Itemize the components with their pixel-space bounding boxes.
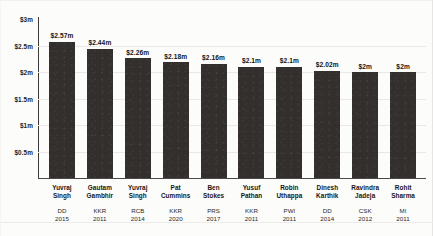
x-axis-label-column: RavindraJadejaCSK2012 [346,180,384,223]
player-name-line2: Sharma [384,192,422,200]
player-name-label: GautamGambhir [81,184,119,201]
x-axis-label-column: RohitSharmaMI2011 [384,180,422,223]
team-abbr: MI [384,207,422,215]
bar-wrapper: $2.16m [195,64,233,178]
bar-column[interactable]: $2.44m [81,19,119,178]
bar-wrapper: $2m [384,72,422,178]
bar-value-label: $2.1m [242,57,261,64]
player-name-line1: Yuvraj [43,184,81,192]
x-axis-label-column: YuvrajSinghDD2015 [43,180,81,223]
bar-rect[interactable]: $2.18m [163,62,189,178]
team-year-label: CSK2012 [346,207,384,223]
y-axis-tick-label: $1.5m [14,95,33,102]
bar-rect[interactable]: $2.16m [201,64,227,178]
bar-value-label: $2.57m [50,32,73,39]
bar-column[interactable]: $2m [346,19,384,178]
bar-rect[interactable]: $2m [352,72,378,178]
bar-column[interactable]: $2.02m [308,19,346,178]
player-name-line1: Dinesh [308,184,346,192]
bar-column[interactable]: $2.57m [43,19,81,178]
x-axis-label-column: RobinUthappaPWI2011 [270,180,308,223]
team-abbr: PRS [195,207,233,215]
frame-top-edge [0,0,433,1]
bar-wrapper: $2m [346,72,384,178]
player-name-label: YusufPathan [233,184,271,201]
y-axis-tick-label: $1m [20,122,33,129]
team-year-label: RCB2014 [119,207,157,223]
bar-rect[interactable]: $2.26m [125,58,151,178]
bar-rect[interactable]: $2.1m [276,67,302,178]
bar-value-label: $2m [358,63,372,70]
x-axis-label-column: BenStokesPRS2017 [195,180,233,223]
player-name-label: RohitSharma [384,184,422,201]
bar-value-label: $2.1m [280,57,299,64]
bar-column[interactable]: $2.1m [233,19,271,178]
player-name-line2: Stokes [195,192,233,200]
y-axis-tick-label: $0.5m [14,148,33,155]
bar-wrapper: $2.18m [157,62,195,178]
auction-year: 2011 [270,215,308,223]
bar-column[interactable]: $2.26m [119,19,157,178]
player-name-line1: Gautam [81,184,119,192]
team-year-label: KKR2011 [81,207,119,223]
auction-year: 2014 [119,215,157,223]
bar-value-label: $2m [396,63,410,70]
player-name-line1: Ben [195,184,233,192]
player-name-line1: Yuvraj [119,184,157,192]
bar-column[interactable]: $2.18m [157,19,195,178]
player-name-line2: Pathan [233,192,271,200]
bar-wrapper: $2.44m [81,49,119,178]
team-abbr: KKR [157,207,195,215]
bar-wrapper: $2.57m [43,42,81,178]
bar-column[interactable]: $2.1m [270,19,308,178]
player-name-line2: Uthappa [270,192,308,200]
bar-rect[interactable]: $2.57m [49,42,75,178]
player-name-label: RobinUthappa [270,184,308,201]
bar-value-label: $2.44m [88,39,111,46]
y-axis-tick-label: $2m [20,69,33,76]
auction-year: 2011 [233,215,271,223]
bar-value-label: $2.18m [164,53,187,60]
auction-year: 2014 [308,215,346,223]
bar-value-label: $2.02m [316,61,339,68]
bars-group: $2.57m$2.44m$2.26m$2.18m$2.16m$2.1m$2.1m… [38,19,426,178]
bar-wrapper: $2.26m [119,58,157,178]
team-year-label: PRS2017 [195,207,233,223]
team-abbr: CSK [346,207,384,215]
player-name-label: DineshKarthik [308,184,346,201]
bar-wrapper: $2.1m [270,67,308,178]
x-axis-label-column: PatCumminsKKR2020 [157,180,195,223]
team-year-label: PWI2011 [270,207,308,223]
bar-column[interactable]: $2m [384,19,422,178]
auction-year: 2015 [43,215,81,223]
x-axis-label-column: DineshKarthikDD2014 [308,180,346,223]
bar-rect[interactable]: $2m [390,72,416,178]
auction-year: 2011 [384,215,422,223]
player-name-line1: Pat [157,184,195,192]
player-name-line1: Robin [270,184,308,192]
bar-rect[interactable]: $2.02m [314,71,340,178]
player-name-line1: Ravindra [346,184,384,192]
bar-rect[interactable]: $2.1m [238,67,264,178]
player-name-label: BenStokes [195,184,233,201]
bar-column[interactable]: $2.16m [195,19,233,178]
bar-wrapper: $2.02m [308,71,346,178]
team-abbr: PWI [270,207,308,215]
player-name-label: YuvrajSingh [43,184,81,201]
y-axis-tick-label: $2.5m [14,42,33,49]
bar-wrapper: $2.1m [233,67,271,178]
auction-year: 2017 [195,215,233,223]
team-abbr: KKR [233,207,271,215]
team-year-label: MI2011 [384,207,422,223]
x-axis-label-column: YusufPathanKKR2011 [233,180,271,223]
auction-year: 2011 [81,215,119,223]
player-name-label: PatCummins [157,184,195,201]
team-year-label: DD2014 [308,207,346,223]
player-name-line2: Gambhir [81,192,119,200]
x-axis-labels-group: YuvrajSinghDD2015GautamGambhirKKR2011Yuv… [38,180,426,223]
player-name-line2: Karthik [308,192,346,200]
team-year-label: DD2015 [43,207,81,223]
plot-area: $3m$2.5m$2m$1.5m$1m$0.5m $2.57m$2.44m$2.… [38,19,426,178]
x-axis-baseline [38,178,426,179]
bar-rect[interactable]: $2.44m [87,49,113,178]
